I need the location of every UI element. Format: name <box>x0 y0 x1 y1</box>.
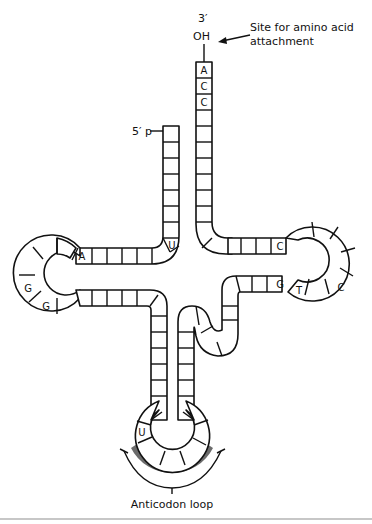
amino-site-arrow <box>218 35 250 44</box>
label-five-prime: 5′ p <box>132 125 152 138</box>
nt-t-loop-t: T <box>295 285 303 296</box>
nt-acceptor-2: C <box>201 81 208 92</box>
trna-diagram: A C C U A G G <box>0 0 372 524</box>
nt-t-arm-g: G <box>276 279 284 290</box>
nt-acceptor-1: A <box>201 65 208 76</box>
nt-t-loop-c: C <box>338 282 345 293</box>
nt-anticodon-u: U <box>138 427 145 438</box>
nt-acceptor-3: C <box>201 97 208 108</box>
label-amino-site-1: Site for amino acid <box>250 21 354 34</box>
nt-d-loop-g1: G <box>24 283 32 294</box>
nt-d-junction: U <box>168 240 175 251</box>
anticodon-stem-right <box>178 276 282 420</box>
label-anticodon-loop: Anticodon loop <box>131 498 213 511</box>
label-oh: OH <box>193 30 210 43</box>
acceptor-stem-5prime <box>76 126 179 264</box>
d-arm-lower-strand <box>76 290 167 420</box>
nt-d-loop-g2: G <box>42 301 50 312</box>
nt-t-arm-c: C <box>277 241 284 252</box>
label-three-prime: 3′ <box>198 12 208 25</box>
nt-d-loop-a: A <box>79 251 86 262</box>
label-amino-site-2: attachment <box>250 35 315 48</box>
